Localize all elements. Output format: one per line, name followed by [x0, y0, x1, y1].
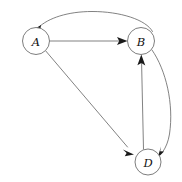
node-b-label: B [136, 35, 145, 49]
edge-a-to-d[interactable] [46, 51, 134, 156]
node-d-label: D [142, 156, 152, 170]
edge-d-to-b-path [142, 63, 144, 149]
node-a-label: A [31, 35, 40, 49]
edge-b-to-d-path [152, 50, 171, 152]
edge-a-to-b[interactable] [50, 37, 128, 45]
node-b[interactable]: B [128, 28, 155, 55]
diagram-canvas: A B D [0, 0, 182, 182]
edge-b-to-d[interactable] [152, 50, 171, 158]
node-d[interactable]: D [135, 149, 161, 175]
edge-a-to-d-path [46, 51, 128, 147]
edge-d-to-b[interactable] [137, 55, 145, 150]
node-layer: A B D [23, 28, 162, 176]
edge-a-to-d-arrowhead [123, 150, 134, 157]
directed-graph-svg: A B D [0, 0, 182, 182]
node-a[interactable]: A [23, 28, 50, 55]
